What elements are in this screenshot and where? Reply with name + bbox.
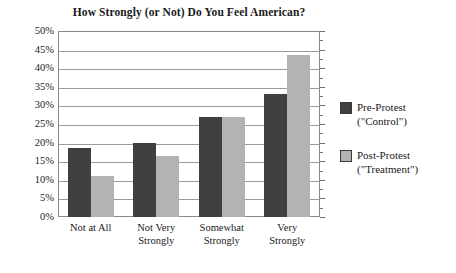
x-axis-tick-label: SomewhatStrongly <box>189 221 255 247</box>
bar <box>156 156 179 217</box>
chart-legend: Pre-Protest("Control")Post-Protest("Trea… <box>340 100 452 196</box>
y-axis-minor-tick <box>320 96 323 97</box>
y-axis-tick-label: 5% <box>6 193 54 203</box>
y-axis-tick-mark <box>320 31 325 32</box>
legend-entry: Post-Protest("Treatment") <box>340 148 452 178</box>
y-axis-minor-tick <box>320 40 323 41</box>
y-axis-tick-label: 10% <box>6 175 54 185</box>
y-axis-tick-label: 15% <box>6 156 54 166</box>
y-axis-tick-mark <box>320 143 325 144</box>
bars-layer <box>58 31 320 217</box>
y-axis-tick-mark <box>320 161 325 162</box>
y-axis-ticks-right <box>320 31 326 217</box>
y-axis-tick-mark <box>320 217 325 218</box>
bar <box>287 55 310 217</box>
y-axis-minor-tick <box>320 189 323 190</box>
bar <box>68 148 91 217</box>
y-axis-minor-tick <box>320 59 323 60</box>
y-axis-tick-label: 45% <box>6 45 54 55</box>
bar <box>133 143 156 217</box>
x-axis-tick-label: Not at All <box>58 221 124 234</box>
bar <box>264 94 287 217</box>
y-axis-tick-mark <box>320 198 325 199</box>
y-axis-tick-label: 40% <box>6 63 54 73</box>
y-axis-tick-label: 25% <box>6 119 54 129</box>
y-axis-tick-label: 50% <box>6 26 54 36</box>
y-axis-minor-tick <box>320 78 323 79</box>
y-axis-tick-label: 0% <box>6 212 54 222</box>
y-axis-tick-label: 20% <box>6 138 54 148</box>
y-axis-minor-tick <box>320 133 323 134</box>
legend-label: Post-Protest("Treatment") <box>357 148 452 176</box>
legend-swatch <box>340 150 352 162</box>
y-axis-tick-mark <box>320 124 325 125</box>
y-axis-tick-mark <box>320 105 325 106</box>
legend-entry: Pre-Protest("Control") <box>340 100 452 130</box>
y-axis-tick-label: 30% <box>6 100 54 110</box>
y-axis-minor-tick <box>320 171 323 172</box>
bar <box>222 117 245 217</box>
legend-swatch <box>340 102 352 114</box>
y-axis-minor-tick <box>320 208 323 209</box>
y-axis-tick-mark <box>320 50 325 51</box>
legend-label: Pre-Protest("Control") <box>357 100 452 128</box>
x-axis-tick-label: Not VeryStrongly <box>124 221 190 247</box>
y-axis-minor-tick <box>320 152 323 153</box>
y-axis-tick-mark <box>320 87 325 88</box>
y-axis-tick-mark <box>320 180 325 181</box>
chart-figure: How Strongly (or Not) Do You Feel Americ… <box>0 0 456 273</box>
chart-title: How Strongly (or Not) Do You Feel Americ… <box>58 6 320 18</box>
x-axis-tick-label: VeryStrongly <box>255 221 321 247</box>
y-axis: 0%5%10%15%20%25%30%35%40%45%50% <box>0 31 54 217</box>
y-axis-minor-tick <box>320 115 323 116</box>
bar <box>199 117 222 217</box>
x-axis-labels: Not at AllNot VeryStronglySomewhatStrong… <box>58 221 320 267</box>
y-axis-tick-mark <box>320 68 325 69</box>
y-axis-tick-label: 35% <box>6 82 54 92</box>
bar <box>91 176 114 217</box>
